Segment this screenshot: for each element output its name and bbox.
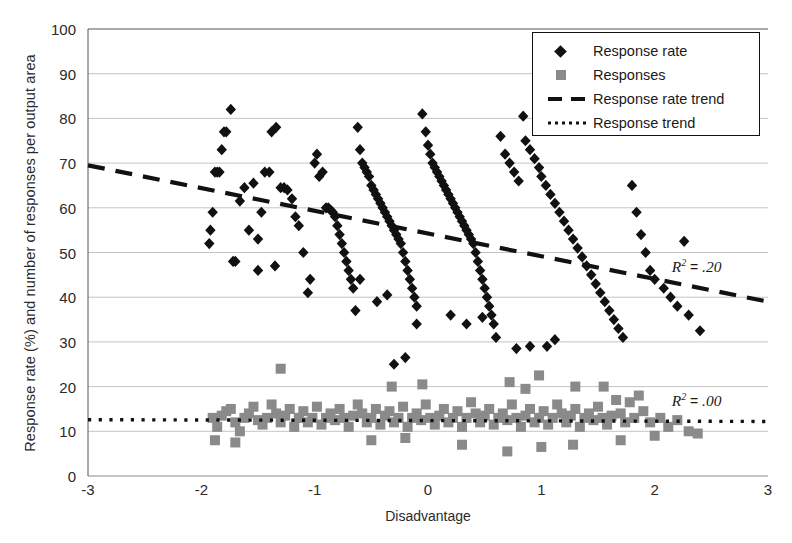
data-point-square [335, 404, 345, 414]
data-point-diamond [541, 180, 551, 191]
legend-key-line [547, 93, 593, 105]
data-point-diamond [405, 274, 415, 285]
legend-item[interactable]: Responses [533, 63, 759, 87]
data-point-diamond [542, 341, 552, 352]
data-point-diamond [491, 332, 501, 343]
legend-key-line [547, 117, 593, 129]
data-point-square [353, 399, 363, 409]
data-point-diamond [577, 251, 587, 262]
data-point-diamond [312, 149, 322, 160]
data-point-square [684, 426, 694, 436]
data-point-diamond [477, 274, 487, 285]
data-point-diamond [511, 343, 521, 354]
series-square [208, 364, 703, 457]
data-point-diamond [400, 256, 410, 267]
data-point-diamond [534, 162, 544, 173]
data-point-square [466, 397, 476, 407]
data-point-diamond [550, 334, 560, 345]
data-point-square [570, 382, 580, 392]
data-point-square [650, 431, 660, 441]
data-point-diamond [402, 265, 412, 276]
data-point-square [271, 408, 281, 418]
data-point-diamond [248, 178, 258, 189]
data-point-diamond [572, 242, 582, 253]
data-point-diamond [482, 292, 492, 303]
data-point-square [552, 399, 562, 409]
square-marker-icon [556, 70, 566, 80]
data-point-square [457, 440, 467, 450]
data-point-diamond [665, 292, 675, 303]
data-point-square [593, 402, 603, 412]
data-point-square [439, 404, 449, 414]
data-point-diamond [486, 309, 496, 320]
data-point-square [387, 382, 397, 392]
data-point-diamond [217, 144, 227, 155]
data-point-square [421, 399, 431, 409]
data-point-square [575, 422, 585, 432]
data-point-diamond [239, 182, 249, 193]
data-point-diamond [568, 233, 578, 244]
dashed-line-icon [547, 93, 591, 105]
data-point-diamond [332, 220, 342, 231]
data-point-square [484, 404, 494, 414]
data-point-diamond [270, 260, 280, 271]
data-point-square [371, 404, 381, 414]
data-point-square [638, 406, 648, 416]
data-point-square [525, 404, 535, 414]
data-point-diamond [253, 265, 263, 276]
data-point-diamond [389, 359, 399, 370]
data-point-square [516, 422, 526, 432]
data-point-square [210, 435, 220, 445]
data-point-diamond [672, 301, 682, 312]
data-point-diamond [500, 149, 510, 160]
chart-legend: Response rateResponsesResponse rate tren… [532, 32, 760, 136]
data-point-diamond [350, 305, 360, 316]
data-point-square [607, 411, 617, 421]
data-point-diamond [337, 238, 347, 249]
data-point-diamond [475, 265, 485, 276]
data-point-square [307, 413, 317, 423]
data-point-diamond [309, 158, 319, 169]
data-point-diamond [334, 229, 344, 240]
data-point-diamond [346, 274, 356, 285]
data-point-square [457, 422, 467, 432]
data-point-square [417, 379, 427, 389]
data-point-square [384, 406, 394, 416]
data-point-diamond [477, 312, 487, 323]
legend-label: Responses [593, 67, 666, 83]
data-point-diamond [563, 225, 573, 236]
data-point-diamond [256, 207, 266, 218]
data-point-square [507, 399, 517, 409]
data-point-diamond [461, 318, 471, 329]
data-point-diamond [645, 265, 655, 276]
data-point-diamond [423, 140, 433, 151]
data-point-diamond [609, 314, 619, 325]
data-point-square [267, 399, 277, 409]
data-point-diamond [591, 278, 601, 289]
data-point-square [625, 397, 635, 407]
data-point-square [616, 435, 626, 445]
data-point-diamond [411, 318, 421, 329]
data-point-diamond [353, 122, 363, 133]
data-point-diamond [595, 287, 605, 298]
legend-item[interactable]: Response rate trend [533, 87, 759, 111]
data-point-diamond [339, 247, 349, 258]
data-point-diamond [627, 180, 637, 191]
data-point-square [235, 426, 245, 436]
data-point-diamond [421, 126, 431, 137]
trendline-dashed [88, 165, 768, 301]
data-point-diamond [550, 198, 560, 209]
diamond-marker-icon [554, 45, 567, 58]
data-point-diamond [504, 158, 514, 169]
data-point-diamond [244, 225, 254, 236]
legend-item[interactable]: Response trend [533, 111, 759, 135]
data-point-square [520, 384, 530, 394]
data-point-square [366, 435, 376, 445]
data-point-diamond [600, 296, 610, 307]
data-point-diamond [343, 265, 353, 276]
data-point-square [452, 406, 462, 416]
data-point-square [557, 408, 567, 418]
legend-item[interactable]: Response rate [533, 39, 759, 63]
data-point-square [400, 433, 410, 443]
data-point-diamond [495, 131, 505, 142]
